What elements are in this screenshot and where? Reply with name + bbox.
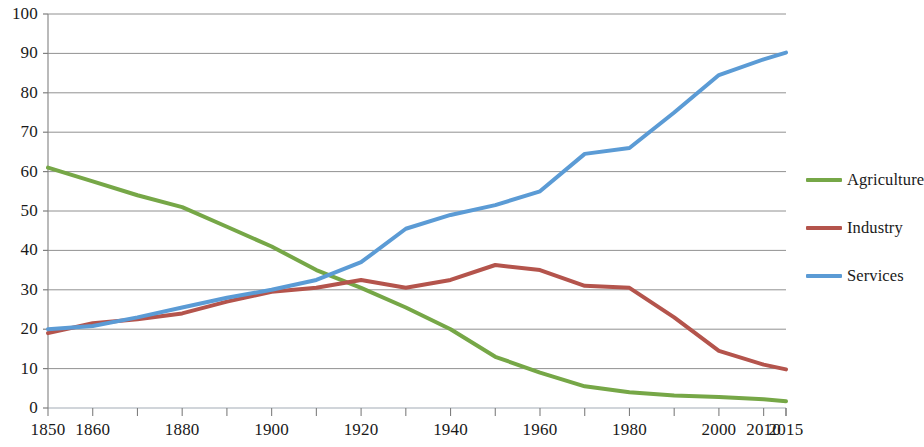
- y-tick-label: 80: [0, 84, 38, 101]
- y-tick-label: 50: [0, 202, 38, 219]
- x-tick-label: 1860: [67, 421, 119, 438]
- legend-item-agriculture[interactable]: Agriculture: [806, 170, 924, 190]
- series-line-industry: [48, 265, 786, 369]
- legend-label-industry: Industry: [847, 218, 903, 238]
- x-tick-label: 1880: [156, 421, 208, 438]
- y-tick-label: 40: [0, 241, 38, 258]
- legend-item-industry[interactable]: Industry: [806, 218, 903, 238]
- legend-label-agriculture: Agriculture: [847, 170, 924, 190]
- x-tick-label: 1980: [603, 421, 655, 438]
- legend-swatch-agriculture: [806, 178, 842, 182]
- legend-swatch-industry: [806, 226, 842, 230]
- x-tick-label: 1920: [335, 421, 387, 438]
- y-tick-label: 90: [0, 44, 38, 61]
- legend-item-services[interactable]: Services: [806, 266, 904, 286]
- y-tick-label: 10: [0, 360, 38, 377]
- y-tick-label: 70: [0, 123, 38, 140]
- legend-label-services: Services: [847, 266, 904, 286]
- axis-lines-group: [43, 14, 48, 408]
- y-tick-label: 0: [0, 399, 38, 416]
- y-tick-label: 100: [0, 5, 38, 22]
- y-tick-label: 20: [0, 320, 38, 337]
- series-lines-group: [48, 53, 786, 402]
- legend-swatch-services: [806, 274, 842, 278]
- gridlines-group: [48, 14, 786, 408]
- y-tick-label: 60: [0, 163, 38, 180]
- x-tick-label: 1940: [425, 421, 477, 438]
- x-tick-label: 2015: [760, 421, 812, 438]
- x-tick-marks-group: [48, 408, 786, 416]
- y-tick-label: 30: [0, 281, 38, 298]
- x-tick-label: 1960: [514, 421, 566, 438]
- x-tick-label: 1900: [246, 421, 298, 438]
